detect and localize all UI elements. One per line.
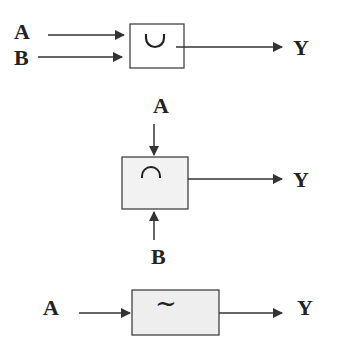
output-y-label: Y <box>293 35 309 60</box>
set-operations-diagram: A B Y A Y B A ~ Y <box>0 0 340 347</box>
complement-icon: ~ <box>155 288 177 318</box>
input-a-label: A <box>14 19 30 44</box>
intersection-box <box>122 157 188 209</box>
input-b-label: B <box>151 244 166 269</box>
complement-block: A ~ Y <box>43 288 313 335</box>
input-b-label: B <box>14 45 29 70</box>
union-block: A B Y <box>14 19 309 70</box>
input-a-label: A <box>153 93 169 118</box>
input-a-label: A <box>43 295 59 320</box>
output-y-label: Y <box>293 167 309 192</box>
intersection-block: A Y B <box>122 93 309 269</box>
output-y-label: Y <box>297 295 313 320</box>
